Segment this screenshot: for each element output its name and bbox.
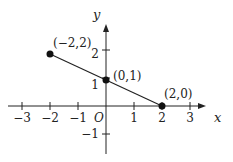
x-tick-label: 2 [158,111,166,125]
point-label: (2,0) [164,87,192,101]
x-tick-label: −2 [41,111,59,125]
y-axis-label: y [92,7,101,22]
x-axis-label: x [214,110,222,125]
point-marker [103,77,110,84]
x-tick-label: 3 [186,111,194,125]
x-tick-label: 1 [130,111,138,125]
origin-label: O [94,111,104,125]
x-axis-arrow-icon [198,103,206,109]
x-tick-label: −3 [13,111,31,125]
point-label: (0,1) [113,69,141,83]
y-axis-arrow-icon [103,24,109,32]
coordinate-plane: y x O −3 −2 −1 1 2 3 −1 1 2 (−2,2) (0,1)… [0,0,233,162]
point-label: (−2,2) [53,36,92,50]
point-marker [159,103,166,110]
x-tick-label: −1 [69,111,87,125]
y-tick-label: −1 [81,127,99,141]
point-marker [47,51,54,58]
y-tick-label: 1 [91,78,99,92]
y-tick-label: 2 [91,47,99,61]
